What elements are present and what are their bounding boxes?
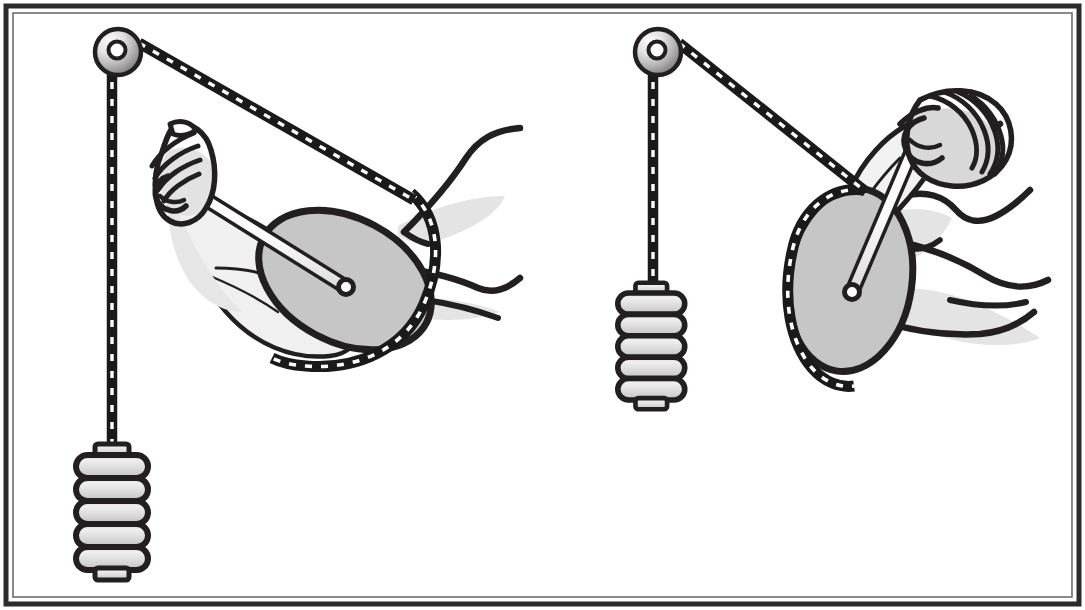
weight-stack[interactable]	[76, 444, 148, 580]
overhead-pulley[interactable]	[635, 29, 681, 75]
overhead-pulley[interactable]	[95, 29, 141, 75]
biomechanics-illustration	[0, 0, 1085, 610]
weight-stack[interactable]	[618, 283, 685, 409]
figure-root: Elbow joint modeled as a cable-and-cam p…	[0, 0, 1085, 610]
